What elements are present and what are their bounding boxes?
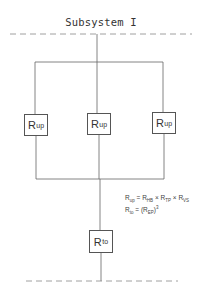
block-label: R xyxy=(91,118,99,130)
block-label: R xyxy=(94,236,102,248)
block-subscript: to xyxy=(102,238,108,245)
block-label: R xyxy=(28,119,36,131)
series-block: Rto xyxy=(89,230,113,253)
block-subscript: up xyxy=(99,121,107,128)
parallel-block-3: Rup xyxy=(152,112,176,134)
parallel-block-2: Rup xyxy=(87,113,111,135)
formula-r-to: Rto = (REP)3 xyxy=(125,203,158,217)
parallel-block-1: Rup xyxy=(24,114,48,136)
block-label: R xyxy=(156,117,164,129)
block-subscript: up xyxy=(164,120,172,127)
block-subscript: up xyxy=(36,122,44,129)
reliability-block-wiring xyxy=(0,0,202,303)
